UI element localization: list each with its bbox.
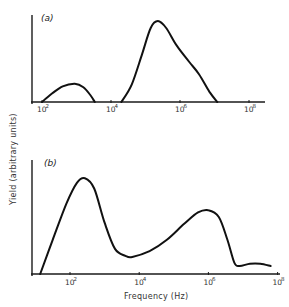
panel-b-label: (b) xyxy=(44,158,57,168)
y-axis-title: Yield (arbitrary units) xyxy=(9,113,18,206)
panel-a-tick-exponent: 4 xyxy=(115,103,119,109)
panel-a-tick-exponent: 2 xyxy=(46,103,50,109)
panel-b-tick-exponent: 8 xyxy=(281,276,285,282)
x-axis-title: Frequency (Hz) xyxy=(124,292,189,301)
panel-b-tick-exponent: 6 xyxy=(212,276,216,282)
series-yield-b xyxy=(40,178,271,274)
panel-a-label: (a) xyxy=(41,13,54,23)
panel-b-curves xyxy=(40,178,271,274)
panel-a-curves xyxy=(42,21,217,102)
series-yield-a-high xyxy=(121,21,217,102)
panel-b-tick-exponent: 2 xyxy=(74,276,78,282)
panel-b: (b) 102104106108 xyxy=(31,158,285,287)
panel-a-tick-exponent: 6 xyxy=(184,103,188,109)
panel-a-tick-exponent: 8 xyxy=(253,103,257,109)
chart-figure: (a) 102104106108 (b) 102104106108 Yield … xyxy=(0,0,289,307)
panel-b-tick-exponent: 4 xyxy=(143,276,147,282)
panel-a: (a) 102104106108 xyxy=(31,13,265,114)
series-yield-a-low xyxy=(42,84,95,102)
